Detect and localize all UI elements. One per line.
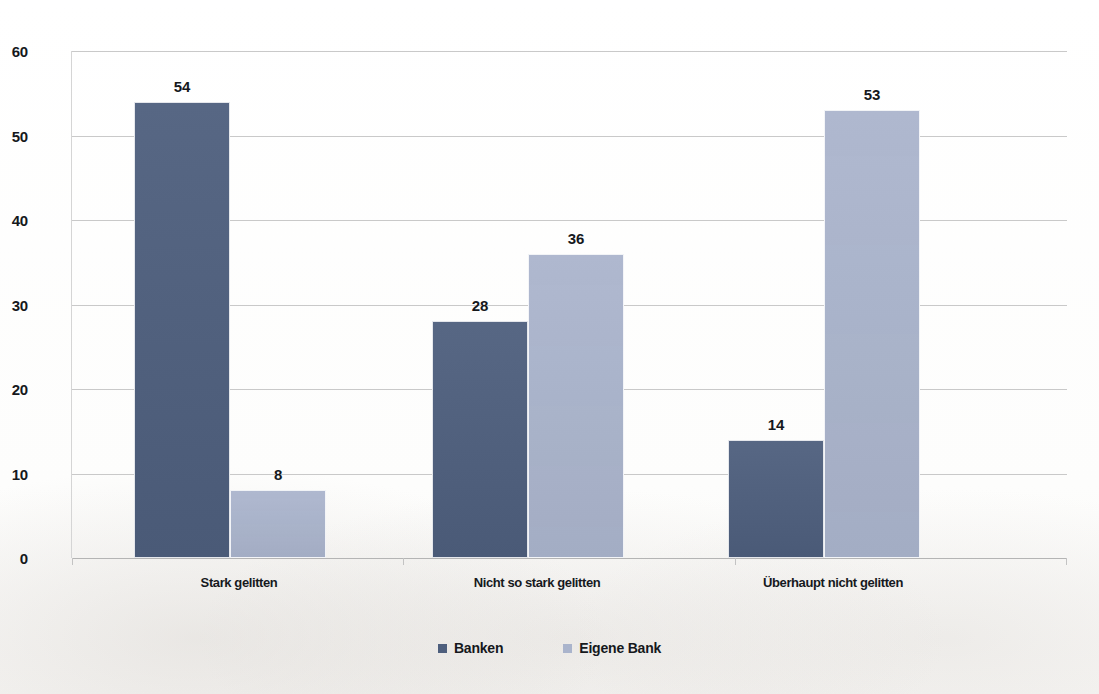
y-tick-label-50: 50 — [0, 127, 28, 144]
category-label-2: Überhaupt nicht gelitten — [727, 575, 939, 590]
y-tick-label-0: 0 — [0, 550, 28, 567]
bar-value-eigene-bank-0: 8 — [230, 466, 326, 483]
y-tick-label-10: 10 — [0, 465, 28, 482]
bar-eigene-bank-1[interactable] — [528, 254, 624, 558]
gridline-0 — [72, 558, 1067, 559]
bar-value-eigene-bank-2: 53 — [824, 86, 920, 103]
bar-value-eigene-bank-1: 36 — [528, 230, 624, 247]
legend-item-banken[interactable]: Banken — [438, 640, 503, 656]
bar-slot-0-2: 14 — [728, 51, 824, 558]
bar-group-1: 28 36 — [432, 51, 624, 558]
y-tick-label-40: 40 — [0, 212, 28, 229]
y-tick-label-60: 60 — [0, 43, 28, 60]
bar-slot-0-0: 54 — [134, 51, 230, 558]
bar-chart: 60 50 40 30 20 10 0 54 8 28 36 — [0, 0, 1099, 694]
bar-group-2: 14 53 — [728, 51, 920, 558]
bar-value-banken-2: 14 — [728, 416, 824, 433]
bar-eigene-bank-0[interactable] — [230, 490, 326, 558]
bar-slot-1-1: 36 — [528, 51, 624, 558]
plot-area: 60 50 40 30 20 10 0 54 8 28 36 — [72, 51, 1067, 558]
legend-swatch-icon-banken — [438, 644, 447, 653]
legend-swatch-icon-eigene-bank — [563, 644, 572, 653]
y-tick-label-30: 30 — [0, 296, 28, 313]
bar-slot-1-0: 8 — [230, 51, 326, 558]
bar-banken-1[interactable] — [432, 321, 528, 558]
category-label-1: Nicht so stark gelitten — [431, 575, 643, 590]
bar-slot-0-1: 28 — [432, 51, 528, 558]
legend-label-banken: Banken — [454, 640, 503, 656]
legend-label-eigene-bank: Eigene Bank — [579, 640, 661, 656]
category-tick-2 — [735, 558, 736, 565]
category-tick-start — [72, 558, 73, 565]
bar-banken-0[interactable] — [134, 102, 230, 558]
category-label-0: Stark gelitten — [133, 575, 345, 590]
bar-value-banken-1: 28 — [432, 297, 528, 314]
bar-eigene-bank-2[interactable] — [824, 110, 920, 558]
y-tick-label-20: 20 — [0, 381, 28, 398]
bar-group-0: 54 8 — [134, 51, 326, 558]
bar-banken-2[interactable] — [728, 440, 824, 558]
legend-item-eigene-bank[interactable]: Eigene Bank — [563, 640, 661, 656]
chart-legend: Banken Eigene Bank — [0, 640, 1099, 656]
bar-value-banken-0: 54 — [134, 78, 230, 95]
category-tick-end — [1066, 558, 1067, 565]
category-tick-1 — [403, 558, 404, 565]
bar-slot-1-2: 53 — [824, 51, 920, 558]
